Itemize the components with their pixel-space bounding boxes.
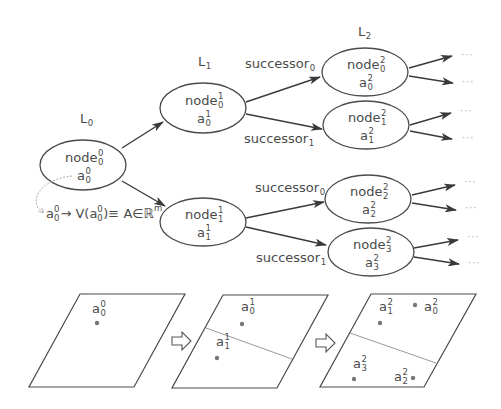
action-point-label: a xyxy=(424,299,432,314)
node-action-label: a xyxy=(197,225,205,240)
node-action-label-sub: 2 xyxy=(370,209,375,219)
ellipsis-icon: ··· xyxy=(462,76,475,87)
ellipsis-icon: ··· xyxy=(461,49,474,60)
node-name-label-sub: 1 xyxy=(218,214,223,224)
node-action-label-sub: 0 xyxy=(367,82,372,92)
action-point-label-sub: 2 xyxy=(402,376,407,386)
ellipsis-icon: ··· xyxy=(465,202,478,213)
ellipsis-icon: ··· xyxy=(468,257,481,268)
level-label-0-sub: 0 xyxy=(88,118,93,128)
continuation-arrow xyxy=(410,131,452,139)
node-name-label-sub: 0 xyxy=(98,157,103,167)
action-point-label: a xyxy=(216,334,224,349)
edge-label-successor-3: successor xyxy=(256,250,321,265)
continuation-arrow xyxy=(412,203,456,210)
continuation-arrow xyxy=(414,240,458,248)
action-point-label: a xyxy=(241,299,249,314)
edge-label-successor-1-sub: 1 xyxy=(309,138,314,148)
action-point-label: a xyxy=(92,301,100,316)
node-action-label: a xyxy=(360,128,368,143)
continuation-arrow xyxy=(412,185,455,195)
node-action-label-sub: 1 xyxy=(205,232,210,242)
node-action-label-sub: 1 xyxy=(368,135,373,145)
node-action-label: a xyxy=(197,111,205,126)
node-action-label-sub: 0 xyxy=(205,118,210,128)
edge-arrow-n1_0-n2_0 xyxy=(246,77,320,102)
edge-arrow-n1_0-n2_1 xyxy=(246,114,322,129)
action-point-label: a xyxy=(379,299,387,314)
action-point-label-sub: 0 xyxy=(432,306,437,316)
edge-label-successor-0-sub: 0 xyxy=(310,63,315,73)
ellipsis-icon: ··· xyxy=(460,105,473,116)
tree-node-n2_3: node23a23 xyxy=(328,228,414,276)
action-point-label-sub: 1 xyxy=(387,306,392,316)
action-point-dot xyxy=(240,322,244,326)
action-point-dot xyxy=(95,321,99,325)
node-name-label-sub: 0 xyxy=(380,64,385,74)
formula-part: 0 xyxy=(97,213,102,223)
tree-node-n1_1: node11a11 xyxy=(160,198,246,246)
continuation-arrows: ························ xyxy=(409,49,481,268)
action-point-dot xyxy=(352,377,356,381)
edge-arrow-n0_0-n1_0 xyxy=(122,122,163,148)
formula-part: )≡ A∈ℝ xyxy=(103,206,154,221)
node-name-label-sub: 3 xyxy=(386,244,391,254)
action-point-label: a xyxy=(353,356,361,371)
action-point-dot xyxy=(378,321,382,325)
formula-part: a xyxy=(46,206,54,221)
tree-node-n2_1: node21a21 xyxy=(323,101,409,149)
partition-panel-2: a21a20a23a22 xyxy=(320,294,476,387)
node-action-label: a xyxy=(362,202,370,217)
continuation-arrow xyxy=(409,56,452,68)
action-point-dot xyxy=(215,356,219,360)
edge-label-successor-3-sub: 1 xyxy=(321,257,326,267)
node-action-label: a xyxy=(365,255,373,270)
tree-nodes: node00a00node10a10node11a11node20a20node… xyxy=(40,48,414,276)
tree-node-n2_2: node22a22 xyxy=(325,175,411,223)
node-name-label: node xyxy=(65,150,97,165)
tree-node-n0_0: node00a00 xyxy=(40,140,126,190)
action-space-parallelogram xyxy=(29,294,185,387)
node-action-label: a xyxy=(77,168,85,183)
continuation-arrow xyxy=(409,76,453,83)
node-name-label-sub: 1 xyxy=(381,117,386,127)
node-name-label: node xyxy=(353,237,385,252)
hollow-right-arrow-icon xyxy=(316,334,335,352)
edge-label-successor-0: successor xyxy=(245,56,310,71)
tree-node-n1_0: node10a10 xyxy=(160,83,246,133)
action-point-dot xyxy=(411,376,415,380)
search-tree-diagram: L0L1L2 successor0successor1successor0suc… xyxy=(0,0,501,409)
level-label-1-sub: 1 xyxy=(206,61,211,71)
action-point-label-sub: 3 xyxy=(361,363,366,373)
node-name-label: node xyxy=(347,57,379,72)
formula-part: 0 xyxy=(54,213,59,223)
node-name-label: node xyxy=(185,93,217,108)
action-point-label: a xyxy=(394,369,402,384)
continuation-arrow xyxy=(410,113,451,125)
edge-label-successor-2: successor xyxy=(255,180,320,195)
formula-part: → V(a xyxy=(60,206,97,221)
ellipsis-icon: ··· xyxy=(462,132,475,143)
edge-arrow-n1_1-n2_2 xyxy=(246,202,324,218)
tree-node-n2_0: node20a20 xyxy=(322,48,408,96)
action-point-label-sub: 0 xyxy=(100,308,105,318)
node-name-label: node xyxy=(348,110,380,125)
partition-panel-1: a10a11 xyxy=(172,295,328,388)
node-name-label-sub: 0 xyxy=(218,100,223,110)
node-action-label: a xyxy=(359,75,367,90)
action-point-dot xyxy=(413,303,417,307)
edge-label-successor-1: successor xyxy=(244,131,309,146)
node-name-label: node xyxy=(350,184,382,199)
node-name-label-sub: 2 xyxy=(383,191,388,201)
ellipsis-icon: ··· xyxy=(467,231,480,242)
node-action-label-sub: 3 xyxy=(373,262,378,272)
hollow-right-arrow-icon xyxy=(172,332,191,350)
edge-label-successor-2-sub: 0 xyxy=(320,187,325,197)
partition-panel-0: a00 xyxy=(29,294,185,387)
action-point-label-sub: 1 xyxy=(224,341,229,351)
edge-arrow-n1_1-n2_3 xyxy=(246,227,326,245)
continuation-arrow xyxy=(414,257,459,264)
formula-part: m xyxy=(154,203,162,213)
action-point-label-sub: 0 xyxy=(249,306,254,316)
level-label-2-sub: 2 xyxy=(366,31,371,41)
